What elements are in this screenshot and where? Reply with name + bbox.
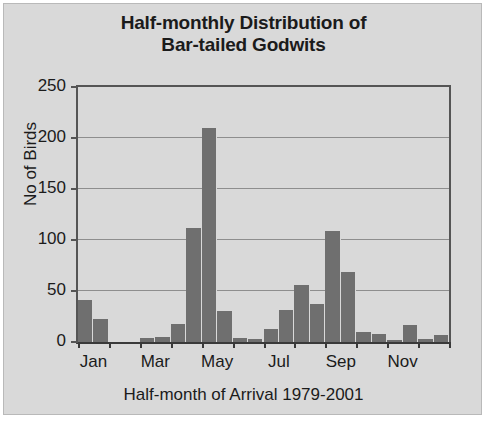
x-tick-mark (109, 342, 111, 348)
y-tick-mark (71, 290, 78, 292)
y-tick-label: 150 (8, 178, 66, 198)
bar-series (78, 87, 449, 342)
x-tick-mark (387, 342, 389, 348)
y-tick-label: 100 (8, 229, 66, 249)
bar (171, 324, 186, 342)
bar (434, 335, 449, 342)
y-tick-label: 250 (8, 76, 66, 96)
bar (186, 228, 201, 342)
x-tick-mark (418, 342, 420, 348)
bar (233, 338, 248, 342)
bar (372, 334, 387, 342)
y-axis-label: No of Birds (21, 89, 41, 239)
x-tick-mark (140, 342, 142, 348)
bar (217, 311, 232, 342)
x-tick-mark (294, 342, 296, 348)
bar (294, 285, 309, 342)
bar (202, 128, 217, 342)
bar (140, 338, 155, 342)
bar (264, 329, 279, 342)
x-axis-label: Half-month of Arrival 1979-2001 (4, 385, 483, 405)
y-tick-label: 200 (8, 127, 66, 147)
y-tick-mark (71, 86, 78, 88)
chart-title-line1: Half-monthly Distribution of (121, 12, 367, 33)
bar (78, 300, 93, 342)
x-tick-mark (356, 342, 358, 348)
x-tick-mark (325, 342, 327, 348)
y-tick-label: 0 (8, 331, 66, 351)
y-tick-mark (71, 341, 78, 343)
bar (93, 319, 108, 342)
bar (325, 231, 340, 342)
bar (155, 337, 170, 342)
x-tick-label: May (182, 352, 252, 372)
x-tick-label: Jan (58, 352, 128, 372)
bar (310, 304, 325, 342)
y-tick-mark (71, 239, 78, 241)
x-tick-label: Mar (120, 352, 190, 372)
bar (341, 272, 356, 342)
bar (387, 340, 402, 342)
x-tick-mark (233, 342, 235, 348)
chart-figure: Half-monthly Distribution of Bar-tailed … (3, 3, 482, 415)
chart-title-line2: Bar-tailed Godwits (4, 34, 483, 56)
y-tick-mark (71, 188, 78, 190)
x-tick-label: Jul (244, 352, 314, 372)
chart-title: Half-monthly Distribution of Bar-tailed … (4, 12, 483, 56)
y-tick-label: 50 (8, 280, 66, 300)
x-tick-mark (171, 342, 173, 348)
bar (356, 332, 371, 342)
x-tick-mark (78, 342, 80, 348)
x-tick-mark (449, 342, 451, 348)
bar (279, 310, 294, 342)
bar (248, 339, 263, 342)
x-tick-label: Nov (368, 352, 438, 372)
bar (418, 339, 433, 342)
x-tick-label: Sep (306, 352, 376, 372)
x-tick-mark (264, 342, 266, 348)
bar (403, 325, 418, 342)
plot-area (76, 85, 451, 344)
x-tick-mark (202, 342, 204, 348)
y-tick-mark (71, 137, 78, 139)
